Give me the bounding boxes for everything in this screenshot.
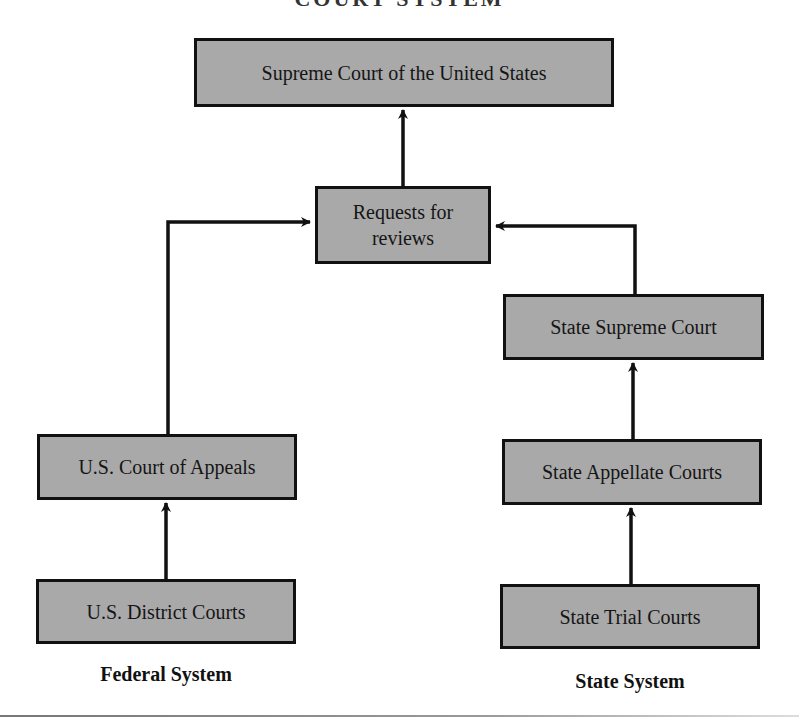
node-state-supreme-court: State Supreme Court: [503, 294, 764, 360]
node-state-trial-courts: State Trial Courts: [500, 584, 760, 649]
node-label: State Appellate Courts: [542, 459, 722, 485]
node-label: Requests for reviews: [340, 199, 466, 251]
node-label: U.S. Court of Appeals: [78, 454, 255, 480]
node-requests-for-reviews: Requests for reviews: [315, 186, 491, 264]
node-us-district-courts: U.S. District Courts: [36, 579, 296, 644]
node-state-appellate-courts: State Appellate Courts: [502, 439, 762, 505]
state-system-label: State System: [500, 670, 760, 693]
federal-system-label: Federal System: [36, 663, 296, 686]
node-supreme-court: Supreme Court of the United States: [194, 38, 614, 107]
node-label: Supreme Court of the United States: [262, 60, 547, 86]
bottom-rule: [0, 715, 799, 717]
node-label: State Trial Courts: [559, 604, 700, 630]
node-label: U.S. District Courts: [87, 599, 246, 625]
node-label: State Supreme Court: [550, 314, 717, 340]
node-us-court-of-appeals: U.S. Court of Appeals: [37, 434, 297, 500]
